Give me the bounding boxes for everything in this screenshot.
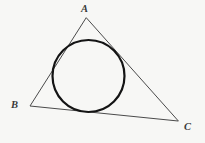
- geometry-canvas: [0, 0, 205, 143]
- vertex-label-a: A: [81, 4, 88, 15]
- vertex-label-c: C: [184, 122, 191, 133]
- geometry-figure: A B C: [0, 0, 205, 143]
- vertex-label-b: B: [11, 100, 18, 111]
- figure-background: [0, 0, 205, 143]
